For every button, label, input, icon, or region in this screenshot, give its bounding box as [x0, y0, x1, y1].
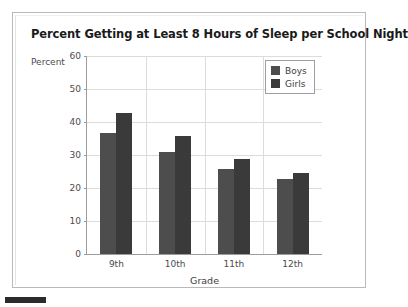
legend-item-girls: Girls — [271, 77, 307, 90]
legend-label: Boys — [285, 66, 307, 76]
y-tick-label: 10 — [70, 216, 81, 226]
bar-group — [100, 56, 132, 254]
y-tick-label: 20 — [70, 183, 81, 193]
y-tick-label: 30 — [70, 150, 81, 160]
y-tick-label: 40 — [70, 117, 81, 127]
bar-group — [159, 56, 191, 254]
y-tick-mark — [84, 56, 87, 57]
x-tick-label: 10th — [165, 259, 186, 269]
legend-label: Girls — [285, 79, 305, 89]
legend-item-boys: Boys — [271, 64, 307, 77]
y-tick-mark — [84, 122, 87, 123]
bar-boys-12th — [277, 179, 293, 254]
plot-area: 0102030405060 9th10th11th12th Grade Boys… — [86, 56, 322, 255]
x-axis-title: Grade — [190, 275, 219, 286]
y-tick-mark — [84, 221, 87, 222]
bar-girls-12th — [293, 173, 309, 254]
bar-boys-11th — [218, 169, 234, 254]
chart-title: Percent Getting at Least 8 Hours of Slee… — [31, 27, 408, 41]
gridline-vertical — [146, 56, 147, 254]
gridline-vertical — [205, 56, 206, 254]
x-tick-label: 12th — [282, 259, 303, 269]
scan-artifact — [5, 297, 46, 303]
y-tick-mark — [84, 89, 87, 90]
bar-girls-10th — [175, 136, 191, 254]
bar-girls-11th — [234, 159, 250, 254]
legend: BoysGirls — [265, 60, 315, 94]
y-tick-mark — [84, 254, 87, 255]
bar-boys-10th — [159, 152, 175, 254]
bar-boys-9th — [100, 133, 116, 254]
x-tick-label: 9th — [109, 259, 124, 269]
legend-swatch-boys — [271, 66, 280, 75]
bar-group — [218, 56, 250, 254]
y-tick-label: 50 — [70, 84, 81, 94]
bar-girls-9th — [116, 113, 132, 254]
legend-swatch-girls — [271, 79, 280, 88]
y-tick-label: 0 — [75, 249, 81, 259]
y-tick-label: 60 — [70, 51, 81, 61]
figure-frame: Percent Getting at Least 8 Hours of Slee… — [12, 12, 366, 288]
y-tick-mark — [84, 188, 87, 189]
x-tick-label: 11th — [224, 259, 245, 269]
y-axis-caption: Percent — [31, 57, 65, 67]
y-tick-mark — [84, 155, 87, 156]
